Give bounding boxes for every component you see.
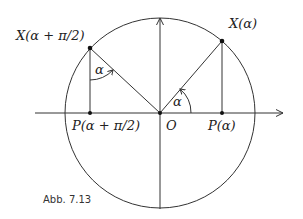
point-p-alpha [220, 111, 224, 115]
label-p-alpha: P(α) [207, 118, 236, 133]
label-angle-x-alpha-pi2: α [95, 62, 104, 77]
point-x-alpha-pi2 [88, 46, 93, 51]
point-p-alpha-pi2 [88, 111, 92, 115]
label-angle-origin: α [173, 94, 182, 109]
point-x-alpha [220, 39, 225, 44]
label-p-alpha-pi2: P(α + π/2) [71, 118, 140, 133]
radius-to-x-alpha [160, 41, 222, 113]
label-x-alpha: X(α) [228, 16, 257, 31]
figure-caption: Abb. 7.13 [43, 194, 91, 205]
point-origin [158, 111, 162, 115]
radius-to-x-alpha-pi2 [90, 48, 160, 113]
label-origin: O [166, 118, 177, 133]
label-x-alpha-pi2: X(α + π/2) [15, 28, 85, 43]
unit-circle-diagram: X(α) X(α + π/2) P(α) P(α + π/2) O α α Ab… [0, 0, 303, 219]
